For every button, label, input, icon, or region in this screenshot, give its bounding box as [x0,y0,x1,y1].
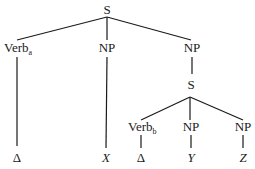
node-np1: NP [99,40,116,55]
leaf-x: X [101,150,111,165]
edge-s-verba [17,17,107,40]
node-s-embedded: S [187,77,194,92]
node-root: S [103,2,110,17]
node-verb-a: Verba [4,40,33,57]
node-np2: NP [184,40,201,55]
edge-s2-verbb [141,97,190,120]
leaf-z: Z [239,150,247,165]
node-verb-b: Verbb [128,119,157,136]
leaf-y: Y [187,150,196,165]
syntax-tree: S Verba NP NP S Verbb NP NP Δ X Δ Y Z [0,0,255,169]
leaf-delta-1: Δ [13,150,21,165]
node-np4: NP [235,119,252,134]
edge-s-np2 [107,17,191,40]
edge-np1-x [106,57,107,148]
node-np3: NP [183,119,200,134]
edge-s2-np4 [190,97,243,120]
leaf-delta-2: Δ [137,150,145,165]
